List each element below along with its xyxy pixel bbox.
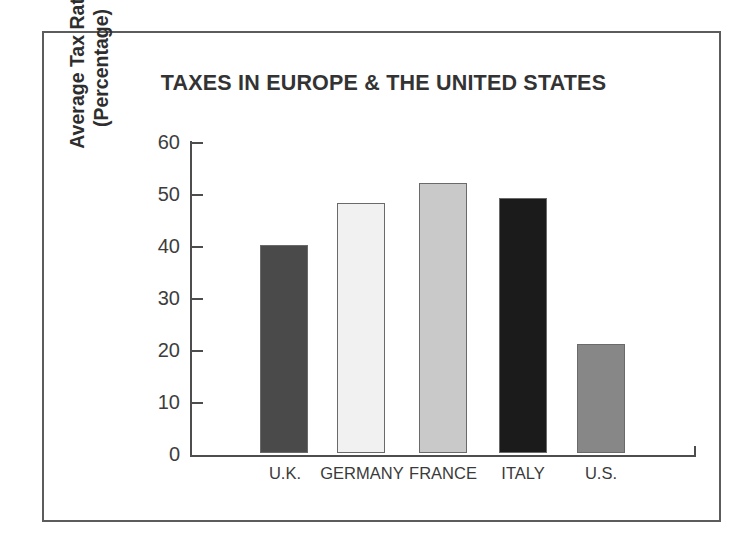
chart-title: TAXES IN EUROPE & THE UNITED STATES [44,71,723,96]
y-tick-50: 50 [192,194,203,196]
chart-frame: TAXES IN EUROPE & THE UNITED STATES Aver… [42,31,721,522]
x-label-us: U.S. [553,465,649,482]
y-tick-40: 40 [192,246,203,248]
bar-uk[interactable] [260,245,308,453]
y-tick-20: 20 [192,350,203,352]
y-tick-label-30: 30 [158,288,180,308]
bar-germany[interactable] [337,203,385,453]
plot-area: 60 50 40 30 20 10 0 [190,143,696,455]
figure-canvas: TAXES IN EUROPE & THE UNITED STATES Aver… [0,0,753,547]
y-tick-10: 10 [192,402,203,404]
y-tick-30: 30 [192,298,203,300]
y-tick-label-20: 20 [158,340,180,360]
y-tick-label-40: 40 [158,236,180,256]
bar-france[interactable] [419,183,467,453]
y-tick-label-10: 10 [158,392,180,412]
y-tick-label-0: 0 [169,444,180,464]
x-axis-line [190,455,696,457]
y-tick-label-60: 60 [158,132,180,152]
bar-italy[interactable] [499,198,547,453]
x-axis-end-tick [694,446,696,457]
y-tick-60: 60 [192,142,203,144]
y-tick-label-50: 50 [158,184,180,204]
bar-us[interactable] [577,344,625,453]
